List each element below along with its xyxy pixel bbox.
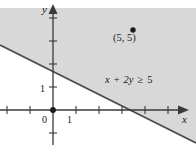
- inequality-term-2y: 2y: [124, 74, 134, 85]
- inequality-rhs: 5: [147, 74, 152, 85]
- shaded-region: [0, 8, 196, 143]
- plot-canvas: [0, 0, 196, 155]
- inequality-term-x: x: [105, 74, 110, 85]
- origin-dot: [50, 107, 56, 113]
- inequality-graph-figure: y x 1 1 0 (5, 5) x+2y≥5: [0, 0, 196, 155]
- x-axis-tick-label-1: 1: [67, 115, 72, 125]
- y-axis-label: y: [42, 4, 47, 15]
- inequality-label: x+2y≥5: [103, 75, 155, 86]
- y-axis-tick-label-1: 1: [40, 84, 45, 94]
- x-axis-label: x: [182, 114, 187, 125]
- inequality-plus-sign: +: [114, 74, 120, 85]
- point-coordinate-label: (5, 5): [113, 33, 136, 44]
- origin-label: 0: [42, 115, 47, 125]
- inequality-operator: ≥: [138, 74, 144, 85]
